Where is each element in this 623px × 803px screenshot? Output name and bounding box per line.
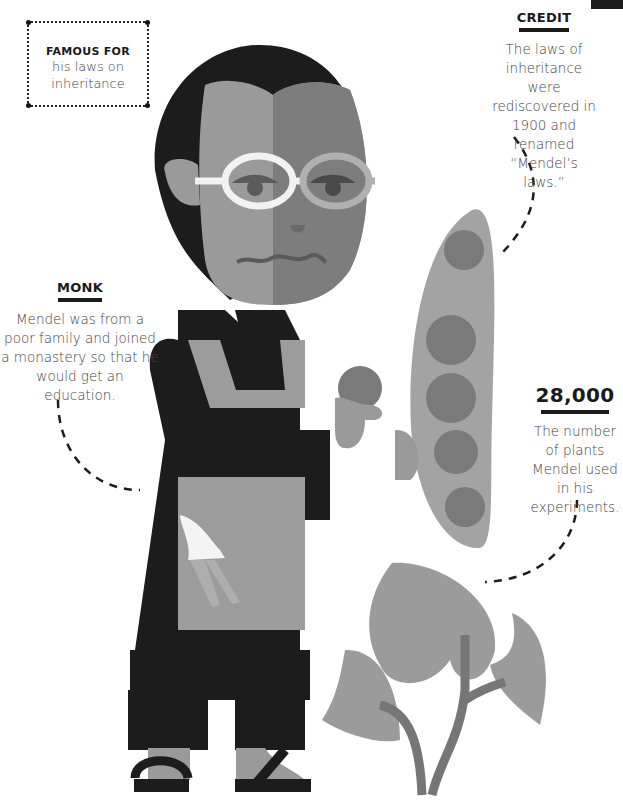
heading-underline (58, 298, 102, 302)
corner-dot (145, 103, 150, 108)
monk-fact: MONK Mendel was from a poor family and j… (0, 280, 160, 405)
pea-plant-icon (322, 563, 546, 795)
plants-count-text: The number of plants Mendel used in his … (530, 422, 620, 517)
monk-text: Mendel was from a poor family and joined… (0, 310, 160, 405)
credit-heading: CREDIT (488, 10, 600, 25)
sandals-icon (134, 748, 311, 792)
monk-connector (58, 400, 140, 490)
famous-for-text: his laws on inheritance (29, 58, 147, 92)
plants-count-fact: 28,000 The number of plants Mendel used … (530, 383, 620, 517)
credit-fact: CREDIT The laws of inheritance were redi… (488, 10, 600, 192)
heading-underline (519, 28, 569, 32)
pea-pod-icon (410, 209, 494, 548)
monk-heading: MONK (0, 280, 160, 295)
famous-for-heading: FAMOUS FOR (29, 45, 147, 58)
credit-text: The laws of inheritance were rediscovere… (488, 40, 600, 192)
plants-count-heading: 28,000 (530, 383, 620, 407)
famous-for-card: FAMOUS FOR his laws on inheritance (27, 21, 149, 107)
heading-underline (541, 410, 609, 414)
corner-dot (145, 20, 150, 25)
corner-dot (26, 20, 31, 25)
hand-holding-pea (335, 366, 418, 480)
corner-dot (26, 103, 31, 108)
head (155, 45, 375, 305)
